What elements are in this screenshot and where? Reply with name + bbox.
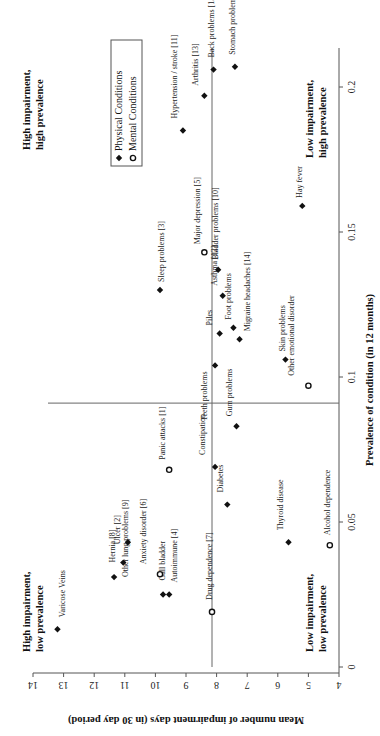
data-point: Drug dependence [7]: [205, 532, 215, 614]
data-point: Teeth problems: [200, 362, 218, 421]
data-point: Gum problems: [225, 369, 239, 430]
y-axis: 4567891011121314 Mean number of impairme…: [28, 673, 342, 726]
diamond-marker-icon: [54, 626, 60, 632]
data-point: Diabetes: [216, 465, 230, 508]
quadrant-label-line: Low impairment,: [304, 573, 315, 652]
circle-marker-icon: [167, 467, 172, 472]
diamond-marker-icon: [224, 501, 230, 507]
legend-item-mental: Mental Conditions: [127, 76, 138, 160]
diamond-marker-icon: [157, 287, 163, 293]
data-point-label: Sleep problems [3]: [157, 221, 166, 282]
circle-marker-icon: [157, 572, 162, 577]
data-point-label: Hay fever: [295, 166, 304, 198]
x-tick-label: 0.1: [346, 371, 357, 384]
diamond-marker-icon: [299, 203, 305, 209]
y-tick-label: 7: [245, 680, 250, 691]
data-point: Bladder problems [10]: [211, 187, 221, 273]
diamond-marker-icon: [233, 423, 239, 429]
circle-marker-icon: [209, 609, 214, 614]
data-point: Panic attacks [1]: [158, 406, 172, 472]
data-point-label: Panic attacks [1]: [158, 406, 167, 460]
x-axis: 00.050.10.150.2 Prevalence of condition …: [339, 48, 376, 673]
data-point-label: Anxiety disorder [6]: [139, 499, 148, 565]
y-tick-label: 4: [337, 680, 342, 691]
quadrant-label-line: high prevalence: [317, 87, 328, 158]
data-point: Constipation: [198, 414, 218, 470]
data-point: Migraine headaches [14]: [236, 251, 251, 342]
data-point-label: Gum problems: [225, 369, 234, 417]
x-tick-label: 0.2: [346, 81, 357, 94]
x-axis-ticks: 00.050.10.150.2: [339, 81, 357, 670]
diamond-marker-icon: [166, 591, 172, 597]
legend-item-physical: Physical Conditions: [113, 71, 124, 162]
data-point-label: Foot problems: [224, 273, 233, 319]
data-point: Alcohol dependence: [323, 469, 333, 548]
data-point-label: Arthritis [13]: [191, 43, 200, 86]
quadrant-label-line: High impairment,: [21, 571, 32, 652]
circle-marker-icon: [306, 383, 311, 388]
y-tick-label: 8: [214, 680, 219, 691]
quadrant-label-line: low prevalence: [34, 585, 45, 652]
data-point-label: Back problems [15]: [207, 0, 216, 58]
legend: Physical Conditions Mental Conditions: [111, 40, 142, 166]
diamond-marker-icon: [180, 127, 186, 133]
data-point-label: Other emotional disorder: [287, 295, 296, 376]
data-point-label: Stomach problems: [228, 0, 237, 55]
data-point-label: Bladder problems [10]: [211, 187, 220, 260]
data-point-label: Other lung problems [9]: [121, 499, 130, 577]
quadrant-label-line: High impairment,: [21, 69, 32, 150]
data-point: Arthritis [13]: [191, 43, 207, 99]
circle-marker-icon: [202, 250, 207, 255]
x-tick-label: 0.05: [346, 513, 357, 531]
data-point: Other emotional disorder: [287, 295, 311, 388]
y-axis-title: Mean number of impairment days (in 30 da…: [67, 714, 304, 726]
y-tick-label: 6: [275, 680, 280, 691]
diamond-marker-icon: [230, 325, 236, 331]
circle-marker-icon: [130, 155, 135, 160]
quadrant-label-low-impairment-high-prevalence: Low impairment, high prevalence: [304, 79, 328, 158]
data-point-label: Varicose Veins: [58, 570, 67, 617]
x-tick-label: 0.15: [346, 223, 357, 241]
legend-label: Physical Conditions: [113, 71, 124, 151]
diamond-marker-icon: [212, 362, 218, 368]
diamond-marker-icon: [201, 93, 207, 99]
diamond-marker-icon: [111, 574, 117, 580]
y-axis-ticks: 4567891011121314: [28, 673, 342, 691]
diamond-marker-icon: [285, 539, 291, 545]
data-point: Stomach problems: [228, 0, 238, 70]
diamond-marker-icon: [160, 591, 166, 597]
y-tick-label: 14: [28, 680, 38, 691]
y-tick-label: 10: [150, 680, 160, 691]
data-point: Foot problems: [224, 273, 236, 331]
y-tick-label: 13: [59, 680, 69, 691]
legend-label: Mental Conditions: [127, 76, 138, 151]
data-point: Hypertension / stroke [11]: [170, 34, 186, 133]
data-point: Piles: [205, 310, 223, 337]
data-point-label: Ulcer [2]: [113, 515, 122, 544]
data-point-label: Major depression [5]: [193, 177, 202, 244]
x-tick-label: 0: [346, 665, 357, 670]
data-point: Thyroid disease: [276, 479, 292, 546]
y-tick-label: 11: [120, 680, 130, 691]
data-point-label: Piles: [205, 310, 214, 326]
diamond-marker-icon: [236, 336, 242, 342]
quadrant-label-line: high prevalence: [34, 79, 45, 150]
quadrant-label-line: low prevalence: [317, 585, 328, 652]
diamond-marker-icon: [232, 64, 238, 70]
data-point-label: Alcohol dependence: [323, 469, 332, 535]
y-tick-label: 12: [89, 680, 99, 691]
data-point-label: Diabetes: [216, 465, 225, 493]
data-points: Varicose VeinsOther lung problems [9]Her…: [54, 0, 332, 633]
diamond-marker-icon: [216, 330, 222, 336]
quadrant-label-high-impairment-high-prevalence: High impairment, high prevalence: [21, 69, 45, 150]
data-point: Varicose Veins: [54, 570, 67, 632]
data-point: Sleep problems [3]: [157, 221, 166, 293]
data-point: Major depression [5]: [193, 177, 207, 255]
data-point-label: Hypertension / stroke [11]: [170, 34, 179, 118]
data-point-label: Migraine headaches [14]: [243, 251, 252, 331]
data-point-label: Drug dependence [7]: [205, 532, 214, 600]
data-point-label: Thyroid disease: [276, 479, 285, 530]
quadrant-label-high-impairment-low-prevalence: High impairment, low prevalence: [21, 571, 45, 652]
x-axis-title: Prevalence of condition (in 12 months): [364, 293, 376, 466]
scatter-chart: 4567891011121314 Mean number of impairme…: [0, 0, 380, 736]
